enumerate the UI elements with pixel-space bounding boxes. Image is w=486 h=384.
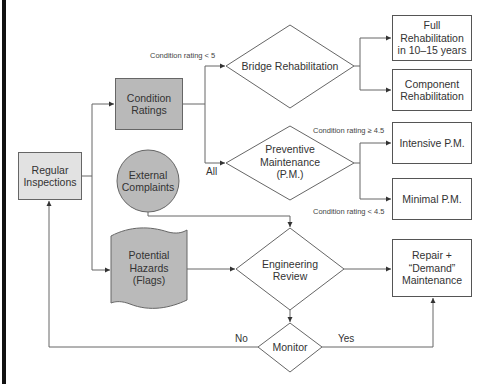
edge-label-no: No — [235, 333, 248, 344]
component-rehabilitation-label: Component Rehabilitation — [393, 78, 471, 103]
intensive-pm-box: Intensive P.M. — [392, 122, 472, 164]
edge-label-all: All — [206, 166, 217, 177]
engineering-review-label: Engineering Review — [258, 258, 322, 283]
regular-inspections-label: Regular Inspections — [19, 164, 81, 189]
intensive-pm-label: Intensive P.M. — [399, 137, 464, 150]
edge-label-condition-lt-5: Condition rating < 5 — [150, 51, 215, 60]
full-rehabilitation-label: Full Rehabilitation in 10–15 years — [395, 19, 469, 57]
condition-ratings-label: Condition Ratings — [124, 92, 174, 117]
pm-label-line2: Maintenance — [260, 156, 320, 169]
full-rehabilitation-box: Full Rehabilitation in 10–15 years — [392, 15, 472, 61]
bridge-rehab-label: Bridge Rehabilitation — [242, 60, 339, 73]
potential-hazards-label: Potential Hazards (Flags) — [123, 249, 175, 287]
repair-demand-box: Repair + “Demand” Maintenance — [392, 239, 472, 297]
component-rehabilitation-box: Component Rehabilitation — [392, 69, 472, 111]
minimal-pm-box: Minimal P.M. — [392, 178, 472, 220]
external-complaints-label: External Complaints — [120, 169, 176, 194]
pm-label-line1: Preventive — [265, 143, 315, 156]
condition-ratings-box: Condition Ratings — [115, 78, 183, 130]
pm-label-line3: (P.M.) — [276, 168, 303, 181]
bridge-rehab-text: Bridge Rehabilitation — [236, 58, 344, 74]
edge-label-condition-lt-4-5: Condition rating < 4.5 — [313, 207, 385, 216]
monitor-label: Monitor — [272, 341, 307, 354]
edge-label-yes: Yes — [338, 333, 354, 344]
potential-hazards-text: Potential Hazards (Flags) — [111, 246, 187, 290]
monitor-text: Monitor — [262, 340, 318, 354]
edge-complaints-to-review — [148, 212, 290, 227]
external-complaints-text: External Complaints — [117, 166, 179, 196]
minimal-pm-label: Minimal P.M. — [402, 193, 461, 206]
edge-label-condition-ge-4-5: Condition rating ≥ 4.5 — [313, 126, 384, 135]
preventive-maintenance-text: Preventive Maintenance (P.M.) — [246, 142, 334, 182]
repair-demand-label: Repair + “Demand” Maintenance — [400, 249, 464, 287]
engineering-review-text: Engineering Review — [250, 256, 330, 284]
regular-inspections-box: Regular Inspections — [18, 152, 82, 200]
